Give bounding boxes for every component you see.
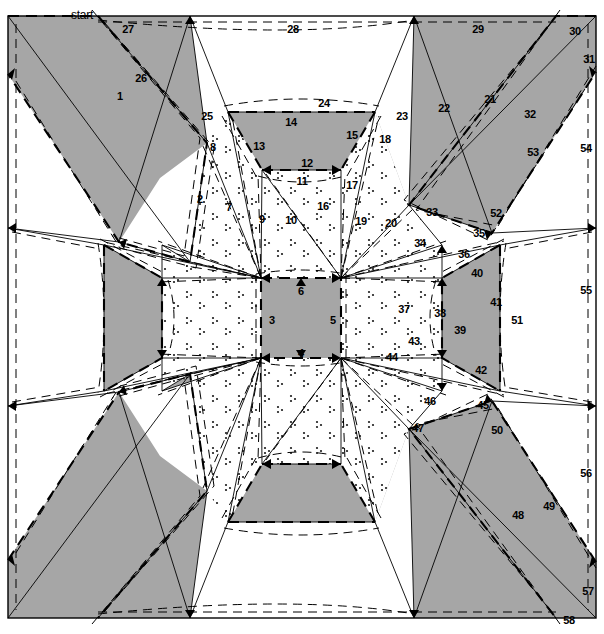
crease-label-7: 7 bbox=[226, 202, 232, 213]
crease-label-34: 34 bbox=[414, 238, 426, 249]
crease-label-2: 2 bbox=[197, 194, 203, 205]
crease-label-37: 37 bbox=[398, 304, 410, 315]
crease-label-16: 16 bbox=[317, 201, 329, 212]
crease-label-21: 21 bbox=[484, 94, 496, 105]
crease-label-36: 36 bbox=[458, 249, 470, 260]
crease-label-25: 25 bbox=[201, 111, 213, 122]
crease-label-38: 38 bbox=[434, 308, 446, 319]
crease-label-54: 54 bbox=[580, 143, 592, 154]
crease-label-23: 23 bbox=[396, 111, 408, 122]
crease-label-26: 26 bbox=[135, 73, 147, 84]
crease-label-56: 56 bbox=[580, 468, 592, 479]
crease-label-45: 45 bbox=[477, 400, 489, 411]
crease-label-42: 42 bbox=[475, 365, 487, 376]
crease-label-47: 47 bbox=[412, 423, 424, 434]
crease-label-51: 51 bbox=[511, 315, 523, 326]
crease-label-41: 41 bbox=[490, 297, 502, 308]
crease-label-9: 9 bbox=[259, 214, 265, 225]
crease-label-3: 3 bbox=[269, 315, 275, 326]
crease-label-24: 24 bbox=[318, 98, 330, 109]
crease-label-53: 53 bbox=[527, 147, 539, 158]
crease-label-48: 48 bbox=[512, 510, 524, 521]
start-label: start bbox=[71, 9, 93, 21]
crease-label-33: 33 bbox=[426, 207, 438, 218]
crease-label-6: 6 bbox=[298, 286, 304, 297]
crease-label-43: 43 bbox=[408, 336, 420, 347]
crease-label-27: 27 bbox=[122, 24, 134, 35]
figure-page: 1234567891011121314151617181920212223242… bbox=[0, 0, 604, 634]
crease-label-39: 39 bbox=[454, 325, 466, 336]
crease-label-19: 19 bbox=[355, 216, 367, 227]
crease-label-46: 46 bbox=[424, 396, 436, 407]
crease-label-11: 11 bbox=[296, 176, 307, 187]
crease-label-18: 18 bbox=[379, 134, 391, 145]
crease-label-17: 17 bbox=[346, 180, 358, 191]
crease-label-28: 28 bbox=[287, 24, 299, 35]
crease-label-44: 44 bbox=[386, 352, 398, 363]
crease-label-15: 15 bbox=[346, 130, 358, 141]
crease-label-8: 8 bbox=[210, 142, 216, 153]
crease-label-49: 49 bbox=[543, 501, 555, 512]
crease-label-1: 1 bbox=[117, 91, 123, 102]
crease-label-14: 14 bbox=[285, 117, 297, 128]
crease-label-52: 52 bbox=[490, 208, 502, 219]
crease-label-57: 57 bbox=[582, 586, 594, 597]
crease-label-20: 20 bbox=[385, 218, 397, 229]
crease-label-4: 4 bbox=[298, 348, 304, 359]
crease-label-58: 58 bbox=[563, 615, 575, 626]
crease-label-32: 32 bbox=[524, 109, 536, 120]
crease-label-35: 35 bbox=[473, 228, 485, 239]
crease-label-12: 12 bbox=[301, 158, 313, 169]
crease-label-10: 10 bbox=[285, 215, 297, 226]
crease-label-13: 13 bbox=[253, 141, 265, 152]
crease-label-50: 50 bbox=[491, 425, 503, 436]
crease-label-40: 40 bbox=[471, 268, 483, 279]
crease-label-30: 30 bbox=[569, 26, 581, 37]
crease-label-22: 22 bbox=[438, 103, 450, 114]
crease-label-5: 5 bbox=[330, 315, 336, 326]
crease-label-31: 31 bbox=[583, 54, 595, 65]
crease-label-29: 29 bbox=[472, 24, 484, 35]
crease-label-55: 55 bbox=[580, 285, 592, 296]
